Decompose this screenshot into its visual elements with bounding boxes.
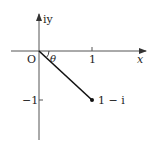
angle-label: θ: [50, 53, 56, 64]
x-tick-label: 1: [89, 53, 96, 66]
segment-origin-to-point: [39, 51, 92, 100]
angle-arc: [46, 51, 49, 58]
y-axis-label: iy: [43, 13, 54, 26]
x-axis-label: x: [137, 53, 144, 66]
origin-label: O: [27, 53, 36, 66]
point-label: 1 − i: [98, 94, 125, 107]
complex-plane-diagram: iy O θ 1 x −1 1 − i: [0, 0, 150, 148]
y-tick-label: −1: [22, 94, 38, 107]
point-1-minus-i: [90, 98, 94, 102]
